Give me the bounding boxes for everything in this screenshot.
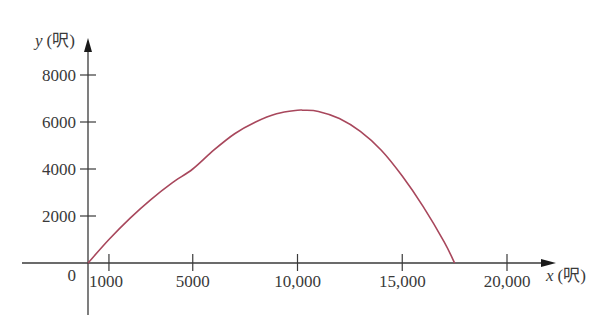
y-axis-arrow-icon	[84, 38, 92, 52]
x-tick-label: 10,000	[274, 272, 321, 291]
y-tick-label: 6000	[42, 113, 76, 132]
y-axis-label: y(呎)	[33, 31, 75, 50]
origin-label: 0	[68, 266, 77, 285]
y-tick-label: 4000	[42, 160, 76, 179]
x-tick-label: 20,000	[484, 272, 531, 291]
y-tick-label: 2000	[42, 207, 76, 226]
y-tick-label: 8000	[42, 66, 76, 85]
x-tick-label: 1000	[89, 272, 123, 291]
x-tick-label: 15,000	[379, 272, 426, 291]
x-ticks: 1000500010,00015,00020,000	[89, 254, 530, 291]
x-tick-label: 5000	[176, 272, 210, 291]
trajectory-curve	[88, 110, 455, 263]
trajectory-chart: 2000400060008000 1000500010,00015,00020,…	[0, 0, 613, 331]
x-axis-label: x(呎)	[545, 266, 586, 285]
